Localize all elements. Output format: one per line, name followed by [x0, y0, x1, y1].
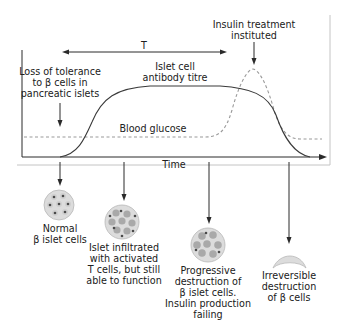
stage-arrowhead-irreversible-icon	[287, 237, 292, 244]
stage-progressive-line5: failing	[163, 309, 253, 320]
stage-arrowhead-progressive-icon	[207, 217, 212, 224]
stage-infiltrated-line4: able to function	[82, 275, 166, 286]
stage-normal-line1: Normal	[30, 223, 90, 234]
stage-irreversible-line2: destruction	[256, 281, 322, 292]
stage-infiltrated-line1: Islet infiltrated	[82, 242, 166, 253]
stage-label-progressive: Progressive destruction of β islet cells…	[163, 265, 253, 320]
x-axis-label: Time	[158, 159, 190, 170]
stage-progressive-line4: Insulin production	[163, 298, 253, 309]
period-t-label: T	[137, 40, 151, 51]
stage-arrowhead-infiltrated-icon	[122, 194, 127, 201]
insulin-arrowhead-icon	[252, 58, 257, 65]
antibody-titre-label: Islet cell antibody titre	[135, 61, 215, 83]
stage-irreversible-line3: of β cells	[256, 292, 322, 303]
loss-of-tolerance-line3: pancreatic islets	[8, 88, 112, 99]
stage-label-irreversible: Irreversible destruction of β cells	[256, 270, 322, 303]
tolerance-arrowhead-icon	[58, 120, 63, 127]
blood-glucose-label: Blood glucose	[118, 123, 188, 134]
insulin-treatment-line2: instituted	[204, 30, 304, 41]
period-arrow-left-icon	[62, 50, 69, 55]
insulin-treatment-line1: Insulin treatment	[204, 19, 304, 30]
loss-of-tolerance-line1: Loss of tolerance	[8, 66, 112, 77]
stage-normal-line2: β islet cells	[30, 234, 90, 245]
normal-islet-icon	[44, 190, 74, 220]
period-arrow-right-icon	[220, 50, 227, 55]
stage-arrowhead-normal-icon	[58, 179, 63, 186]
x-axis-arrowhead-icon	[319, 154, 327, 160]
stage-progressive-line3: β islet cells.	[163, 287, 253, 298]
stage-label-infiltrated: Islet infiltrated with activated T cells…	[82, 242, 166, 286]
stage-progressive-line2: destruction of	[163, 276, 253, 287]
infiltrated-islet-icon	[105, 205, 139, 239]
stage-irreversible-line1: Irreversible	[256, 270, 322, 281]
insulin-treatment-label: Insulin treatment instituted	[204, 19, 304, 41]
stage-infiltrated-line2: with activated	[82, 253, 166, 264]
antibody-label-line2: antibody titre	[135, 72, 215, 83]
destroyed-islet-icon	[273, 256, 306, 268]
antibody-label-line1: Islet cell	[135, 61, 215, 72]
loss-of-tolerance-label: Loss of tolerance to β cells in pancreat…	[8, 66, 112, 99]
progressive-islet-icon	[191, 228, 225, 262]
stage-label-normal: Normal β islet cells	[30, 223, 90, 245]
stage-infiltrated-line3: T cells, but still	[82, 264, 166, 275]
loss-of-tolerance-line2: to β cells in	[8, 77, 112, 88]
stage-progressive-line1: Progressive	[163, 265, 253, 276]
